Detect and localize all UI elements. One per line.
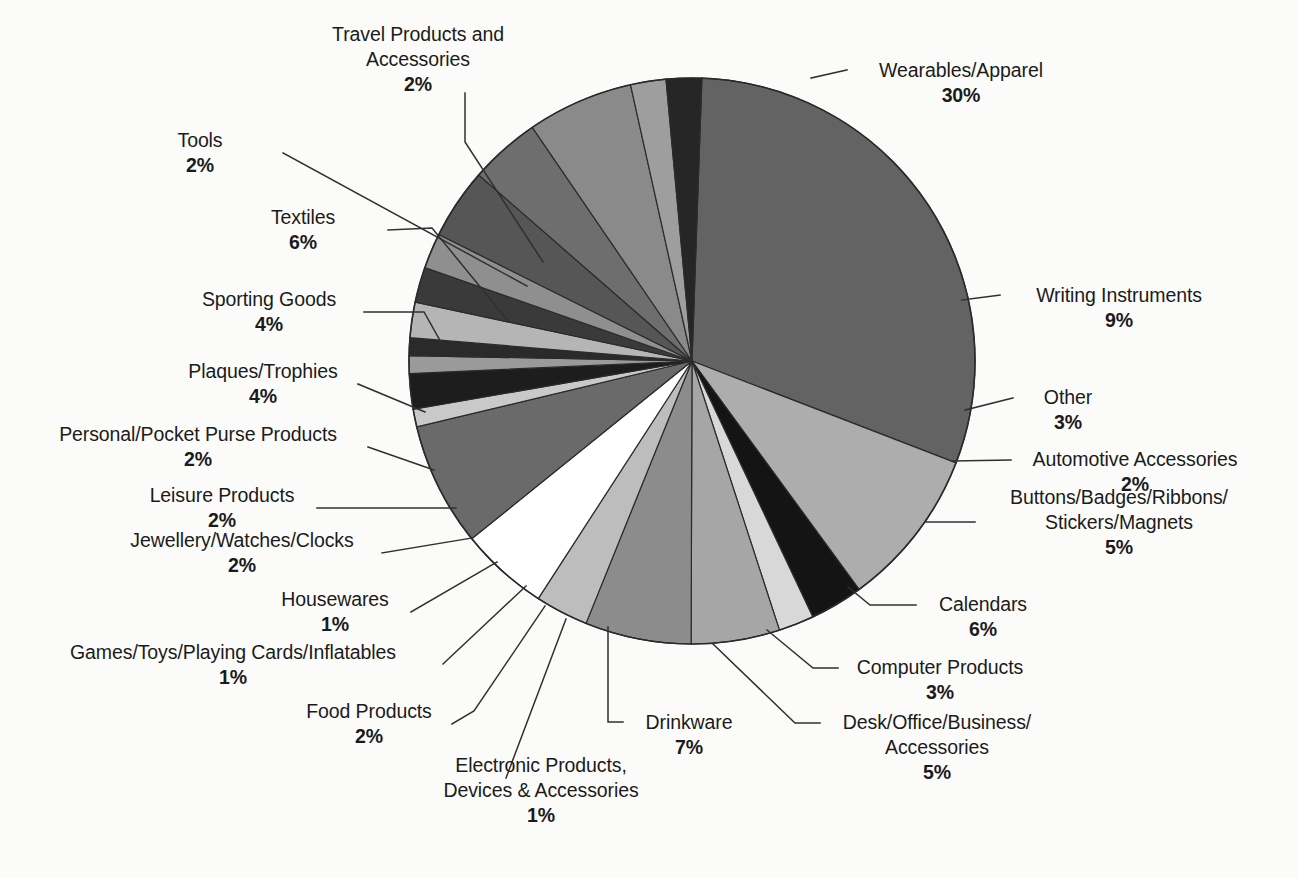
slice-label-textiles-line1: Textiles [228,205,378,230]
leader-line-automotive [952,460,1011,461]
slice-label-other-line1: Other [1013,385,1123,410]
pie-chart-figure: Travel Products and Accessories 2% Tools… [0,0,1297,878]
slice-label-automotive-accessories-line1: Automotive Accessories [1013,447,1257,472]
slice-label-electronic-products: Electronic Products, Devices & Accessori… [401,753,681,828]
slice-value-tools: 2% [130,153,270,178]
slice-label-drinkware: Drinkware 7% [624,710,754,760]
leader-line-computer [767,630,838,668]
slice-label-wearables-apparel-line1: Wearables/Apparel [851,58,1071,83]
slice-label-wearables-apparel: Wearables/Apparel 30% [851,58,1071,108]
slice-label-games-toys: Games/Toys/Playing Cards/Inflatables 1% [33,640,433,690]
leader-line-food [452,606,545,724]
slice-value-buttons-badges: 5% [979,535,1259,560]
slice-value-plaques-trophies: 4% [178,384,348,409]
slice-label-jewellery-watches-clocks: Jewellery/Watches/Clocks 2% [112,528,372,578]
slice-label-food-products-line1: Food Products [294,699,444,724]
slice-label-games-toys-line1: Games/Toys/Playing Cards/Inflatables [33,640,433,665]
slice-label-computer-products: Computer Products 3% [840,655,1040,705]
slice-label-desk-office: Desk/Office/Business/ Accessories 5% [822,710,1052,785]
slice-value-travel-products: 2% [273,72,563,97]
slice-label-writing-instruments: Writing Instruments 9% [1004,283,1234,333]
slice-label-plaques-trophies-line1: Plaques/Trophies [178,359,348,384]
slice-label-leisure-products-line1: Leisure Products [137,483,307,508]
leader-line-housewares [411,562,497,612]
slice-label-desk-office-line1: Desk/Office/Business/ [822,710,1052,735]
slice-value-sporting-goods: 4% [184,312,354,337]
slice-label-automotive-accessories: Automotive Accessories 2% [1013,447,1257,497]
slice-value-desk-office: 5% [822,760,1052,785]
slice-label-desk-office-line2: Accessories [822,735,1052,760]
slice-label-writing-instruments-line1: Writing Instruments [1004,283,1234,308]
leader-line-wearables [811,70,847,78]
slice-value-wearables-apparel: 30% [851,83,1071,108]
leader-line-drinkware [608,627,623,722]
slice-value-electronic-products: 1% [401,803,681,828]
slice-label-drinkware-line1: Drinkware [624,710,754,735]
slice-label-travel-products-line2: Accessories [273,47,563,72]
slice-label-calendars-line1: Calendars [918,592,1048,617]
slice-label-buttons-badges-line2: Stickers/Magnets [979,510,1259,535]
pie-slices-group [409,78,975,644]
slice-label-textiles: Textiles 6% [228,205,378,255]
slice-label-sporting-goods: Sporting Goods 4% [184,287,354,337]
slice-value-automotive-accessories: 2% [1013,472,1257,497]
slice-value-jewellery-watches-clocks: 2% [112,553,372,578]
slice-label-travel-products: Travel Products and Accessories 2% [273,22,563,97]
slice-value-food-products: 2% [294,724,444,749]
slice-label-tools-line1: Tools [130,128,270,153]
slice-label-leisure-products: Leisure Products 2% [137,483,307,533]
slice-value-drinkware: 7% [624,735,754,760]
slice-label-personal-pocket-purse: Personal/Pocket Purse Products 2% [38,422,358,472]
slice-label-food-products: Food Products 2% [294,699,444,749]
slice-value-calendars: 6% [918,617,1048,642]
slice-value-textiles: 6% [228,230,378,255]
slice-label-travel-products-line1: Travel Products and [273,22,563,47]
slice-label-plaques-trophies: Plaques/Trophies 4% [178,359,348,409]
slice-value-personal-pocket-purse: 2% [38,447,358,472]
slice-value-writing-instruments: 9% [1004,308,1234,333]
slice-label-housewares-line1: Housewares [265,587,405,612]
slice-label-electronic-products-line2: Devices & Accessories [401,778,681,803]
slice-label-calendars: Calendars 6% [918,592,1048,642]
slice-label-housewares: Housewares 1% [265,587,405,637]
slice-value-computer-products: 3% [840,680,1040,705]
slice-label-other: Other 3% [1013,385,1123,435]
slice-value-other: 3% [1013,410,1123,435]
slice-value-games-toys: 1% [33,665,433,690]
leader-line-jewellery [382,538,472,553]
slice-label-computer-products-line1: Computer Products [840,655,1040,680]
slice-label-personal-pocket-purse-line1: Personal/Pocket Purse Products [38,422,358,447]
slice-value-housewares: 1% [265,612,405,637]
slice-label-jewellery-watches-clocks-line1: Jewellery/Watches/Clocks [112,528,372,553]
slice-label-tools: Tools 2% [130,128,270,178]
slice-label-sporting-goods-line1: Sporting Goods [184,287,354,312]
